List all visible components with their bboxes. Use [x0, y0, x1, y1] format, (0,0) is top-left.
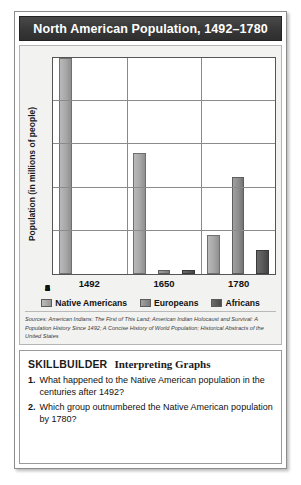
- bar-group: [127, 58, 201, 274]
- y-axis-title-text: Population (in millions of people): [27, 107, 37, 241]
- skillbuilder-subtitle: Interpreting Graphs: [114, 358, 210, 370]
- question-text: Which group outnumbered the Native Ameri…: [40, 401, 273, 425]
- y-tick-label: 5: [45, 284, 50, 293]
- gridline-vertical: [201, 58, 202, 274]
- legend-item: Africans: [211, 298, 259, 308]
- bar: [59, 58, 72, 274]
- gridline-horizontal: [53, 230, 275, 231]
- skillbuilder-question: 2.Which group outnumbered the Native Ame…: [28, 401, 273, 425]
- legend-swatch: [140, 299, 151, 307]
- bar: [133, 153, 146, 274]
- bars-layer: [53, 58, 275, 274]
- page-root: North American Population, 1492–1780 Pop…: [0, 0, 301, 485]
- skillbuilder-question: 1.What happened to the Native American p…: [28, 374, 273, 398]
- x-axis-label: 1492: [79, 278, 100, 289]
- x-axis-label: 1780: [228, 278, 249, 289]
- y-axis-ticks: 012345: [39, 51, 52, 297]
- bar: [182, 270, 195, 274]
- question-text: What happened to the Native American pop…: [40, 374, 273, 398]
- gridline-horizontal: [53, 143, 275, 144]
- bar-group: [53, 58, 127, 274]
- x-axis-label: 1650: [153, 278, 174, 289]
- legend-label: Native Americans: [55, 298, 127, 308]
- bar: [256, 250, 269, 274]
- chart-title-bar: North American Population, 1492–1780: [19, 16, 282, 41]
- gridline-horizontal: [53, 187, 275, 188]
- skillbuilder-panel: SKILLBUILDER Interpreting Graphs 1.What …: [19, 350, 282, 465]
- chart-area: Population (in millions of people) 01234…: [25, 51, 276, 297]
- legend-swatch: [41, 299, 52, 307]
- bar: [207, 235, 220, 274]
- legend-item: Europeans: [140, 298, 198, 308]
- bar: [232, 177, 245, 274]
- skillbuilder-label: SKILLBUILDER: [28, 358, 107, 370]
- question-number: 2.: [28, 401, 36, 425]
- skillbuilder-questions: 1.What happened to the Native American p…: [28, 374, 273, 426]
- plot-area: [52, 57, 276, 275]
- plot-outer: 149216501780: [52, 51, 276, 297]
- x-axis-labels: 149216501780: [52, 278, 276, 294]
- legend-swatch: [211, 299, 222, 307]
- bar-group: [201, 58, 275, 274]
- chart-graphic-panel: Population (in millions of people) 01234…: [19, 45, 282, 345]
- gridline-vertical: [127, 58, 128, 274]
- chart-title: North American Population, 1492–1780: [33, 22, 267, 36]
- legend-item: Native Americans: [41, 298, 127, 308]
- gridline-horizontal: [53, 100, 275, 101]
- skillbuilder-header: SKILLBUILDER Interpreting Graphs: [28, 358, 273, 370]
- sources-note: Sources: American Indians: The First of …: [25, 311, 276, 341]
- legend-label: Europeans: [154, 298, 198, 308]
- bar: [158, 270, 171, 274]
- question-number: 1.: [28, 374, 36, 398]
- chart-legend: Native AmericansEuropeansAfricans: [25, 297, 276, 311]
- legend-label: Africans: [225, 298, 259, 308]
- y-axis-title: Population (in millions of people): [25, 51, 39, 297]
- figure-card: North American Population, 1492–1780 Pop…: [14, 11, 287, 469]
